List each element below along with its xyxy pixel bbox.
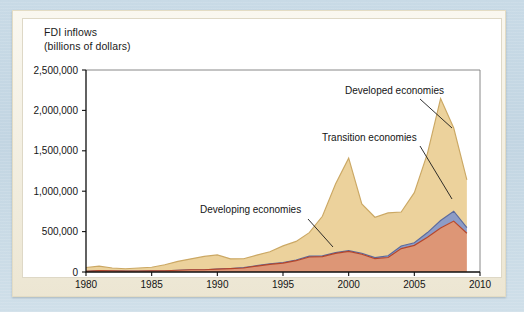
x-tick-label: 2000 <box>338 279 361 290</box>
x-tick-label: 1995 <box>272 279 295 290</box>
y-tick-label: 1,500,000 <box>34 145 79 156</box>
y-tick-label: 1,000,000 <box>34 186 79 197</box>
series-annotation-label: Developed economies <box>345 85 444 96</box>
x-tick-label: 1985 <box>141 279 164 290</box>
y-tick-label: 2,000,000 <box>34 105 79 116</box>
fdi-inflows-area-chart: 0500,0001,000,0001,500,0002,000,0002,500… <box>0 0 524 312</box>
figure-page: FDI inflows (billions of dollars) 0500,0… <box>0 0 524 312</box>
y-tick-label: 0 <box>72 267 78 278</box>
x-tick-label: 2010 <box>469 279 492 290</box>
x-tick-label: 1990 <box>206 279 229 290</box>
x-tick-label: 2005 <box>403 279 426 290</box>
series-annotation-label: Developing economies <box>200 204 301 215</box>
series-annotation-label: Transition economies <box>322 132 417 143</box>
x-tick-label: 1980 <box>75 279 98 290</box>
y-tick-label: 500,000 <box>42 226 79 237</box>
y-tick-label: 2,500,000 <box>34 65 79 76</box>
